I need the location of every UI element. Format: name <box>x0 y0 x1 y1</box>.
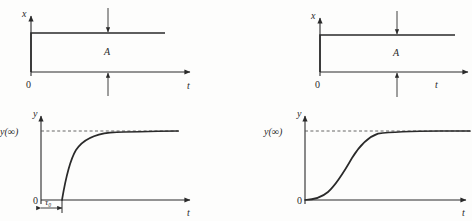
sigmoidal-response-trace <box>305 131 470 200</box>
dead-time-label: τ₀ <box>45 197 51 207</box>
steady-state-label-right: y(∞) <box>263 126 283 138</box>
panel-bottom-right: y t 0 y(∞) <box>263 108 470 218</box>
steady-state-label-left: y(∞) <box>0 126 19 138</box>
y-axis-label-top-right: x <box>310 10 316 21</box>
x-axis-label-bottom-right: t <box>462 207 465 218</box>
origin-label-top-left: 0 <box>26 79 31 90</box>
y-axis-label-bottom-right: y <box>296 108 302 119</box>
x-axis-label-top-right: t <box>435 79 438 90</box>
panel-bottom-left: y t 0 y(∞) τ₀ <box>0 108 190 218</box>
panel-top-right: x t 0 A <box>310 10 468 97</box>
origin-label-bottom-right: 0 <box>297 195 302 206</box>
step-input-trace-top-right <box>320 35 455 72</box>
origin-label-top-right: 0 <box>315 79 320 90</box>
step-response-figure: x t 0 A y t 0 y(∞) τ₀ x t 0 A y t 0 <box>0 0 472 221</box>
amplitude-label-top-left: A <box>103 46 111 57</box>
x-axis-label-bottom-left: t <box>187 207 190 218</box>
figure-canvas: x t 0 A y t 0 y(∞) τ₀ x t 0 A y t 0 <box>0 0 472 221</box>
panel-top-left: x t 0 A <box>21 8 190 96</box>
y-axis-label-bottom-left: y <box>32 108 38 119</box>
first-order-response-trace <box>62 131 178 200</box>
origin-label-bottom-left: 0 <box>33 195 38 206</box>
x-axis-label-top-left: t <box>187 80 190 91</box>
amplitude-label-top-right: A <box>392 47 400 58</box>
y-axis-label-top-left: x <box>21 8 27 19</box>
step-input-trace-top-left <box>31 33 165 72</box>
